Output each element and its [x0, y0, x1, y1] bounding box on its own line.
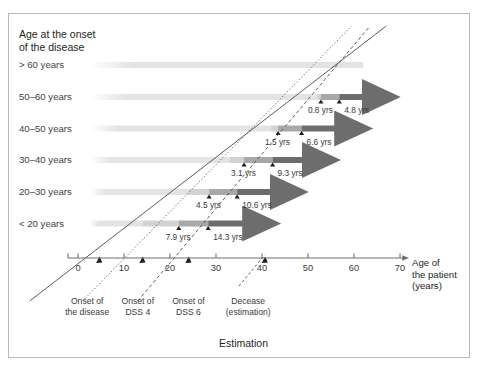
dss6-years-label: 14.3 yrs [213, 232, 243, 242]
dss4-marker-icon [176, 226, 181, 230]
dss4-marker-icon [241, 162, 246, 166]
x-axis-tick-label: 60 [345, 263, 363, 273]
segment-to-dss4 [271, 126, 278, 132]
row-category-label: < 20 years [19, 218, 64, 229]
dss6-marker-icon [206, 226, 211, 230]
dss6-years-label: 6.6 yrs [307, 137, 332, 147]
dss4-years-label: 0.8 yrs [308, 105, 333, 115]
dss4-years-label: 4.5 yrs [196, 200, 221, 210]
segment-to-dss4 [317, 94, 321, 100]
figure-root: Age at the onset of the disease > 60 yea… [0, 0, 487, 376]
x-axis-tick-label: 30 [207, 263, 225, 273]
segment-to-dss4 [188, 189, 209, 195]
x-axis-tick-label: 70 [391, 263, 409, 273]
dss6-years-label: 9.3 yrs [278, 168, 303, 178]
segment-dss4-to-dss6 [179, 221, 208, 227]
row-category-label: > 60 years [19, 59, 64, 70]
dss6-years-label: 10.6 yrs [242, 200, 272, 210]
row-category-label: 40–50 years [19, 123, 72, 134]
x-axis-tick-label: 20 [161, 263, 179, 273]
dss4-years-label: 1.5 yrs [265, 137, 290, 147]
dss6-marker-icon [337, 99, 342, 103]
row-category-label: 20–30 years [19, 186, 72, 197]
onset-band [90, 94, 317, 100]
x-axis-tick-label: 50 [299, 263, 317, 273]
x-axis-tick-label: 40 [253, 263, 271, 273]
onset-band [90, 62, 363, 68]
segment-dss4-to-dss6 [321, 94, 339, 100]
segment-dss4-to-dss6 [209, 189, 237, 195]
dss4-years-label: 7.9 yrs [166, 232, 191, 242]
dss6-marker-icon [235, 194, 240, 198]
row-category-label: 50–60 years [19, 91, 72, 102]
onset-band [90, 126, 271, 132]
segment-to-dss4 [230, 157, 244, 163]
row-category-label: 30–40 years [19, 154, 72, 165]
chart-canvas [0, 0, 487, 376]
dss6-years-label: 4.8 yrs [344, 105, 369, 115]
x-axis-tick-label: 0 [69, 263, 87, 273]
x-axis-title: Age of the patient (years) [412, 257, 457, 292]
dss6-marker-icon [299, 131, 304, 135]
onset-band [90, 157, 230, 163]
x-axis-tick-label: 10 [115, 263, 133, 273]
dss4-years-label: 3.1 yrs [231, 168, 256, 178]
dss4-marker-icon [207, 194, 212, 198]
segment-to-dss4 [142, 221, 178, 227]
dss4-marker-icon [318, 99, 323, 103]
figure-caption: Estimation [0, 337, 487, 349]
axis-annotation: Decease (estimation) [212, 296, 284, 317]
dss6-marker-icon [270, 162, 275, 166]
onset-band [90, 221, 142, 227]
